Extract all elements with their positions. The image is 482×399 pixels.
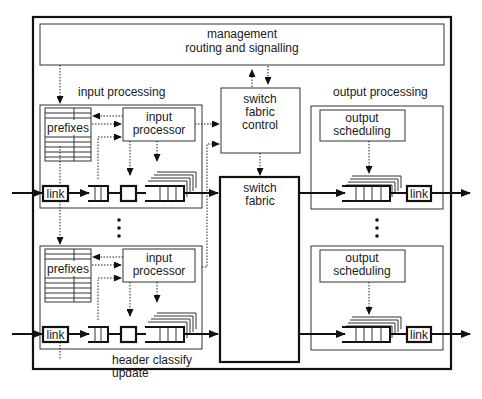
input-unit-2: prefixes input processor link (40, 246, 202, 349)
management-box: management routing and signalling (40, 24, 444, 65)
prefixes-label: prefixes (47, 121, 89, 135)
switch-fabric-control-box: switch fabric control (221, 88, 300, 153)
router-architecture-diagram: management routing and signalling input … (0, 0, 482, 399)
input-link-label: link (46, 187, 65, 201)
svg-text:switch: switch (243, 92, 276, 106)
svg-text:switch: switch (243, 181, 276, 195)
annotation-line1: header classify (112, 353, 192, 367)
prefixes-label: prefixes (47, 262, 89, 276)
management-label: management (207, 27, 278, 41)
input-link-label: link (46, 328, 65, 342)
svg-text:fabric: fabric (245, 194, 274, 208)
svg-text:control: control (242, 118, 278, 132)
svg-text:processor: processor (133, 264, 186, 278)
input-processing-title: input processing (78, 85, 165, 99)
output-scheduling-label: output (345, 251, 379, 265)
header-processing-box (121, 327, 136, 342)
svg-text:processor: processor (133, 123, 186, 137)
input-ellipsis (117, 218, 121, 238)
output-ellipsis (375, 218, 379, 238)
management-sublabel: routing and signalling (185, 41, 298, 55)
output-link-label: link (410, 328, 429, 342)
svg-text:scheduling: scheduling (333, 264, 390, 278)
input-processor-label: input (146, 110, 173, 124)
switch-fabric-box: switch fabric (220, 177, 299, 362)
svg-text:scheduling: scheduling (333, 124, 390, 138)
annotation-line2: update (112, 366, 149, 380)
output-processing-title: output processing (333, 85, 428, 99)
input-processor-label: input (146, 251, 173, 265)
output-scheduling-label: output (345, 111, 379, 125)
input2-to-control-arrow (202, 144, 219, 267)
svg-text:fabric: fabric (245, 105, 274, 119)
header-processing-box (121, 186, 136, 201)
output-link-label: link (410, 187, 429, 201)
